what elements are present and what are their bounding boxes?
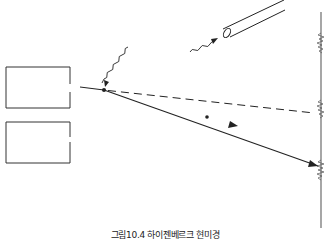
microscope-tube [222, 0, 285, 39]
incident-electron-path [80, 87, 104, 90]
deflected-electron-path [104, 90, 318, 166]
slit-blocks [6, 67, 70, 163]
heisenberg-microscope-diagram [0, 0, 330, 241]
lower-slit-block [6, 122, 70, 163]
upper-slit-block [6, 67, 70, 108]
figure-caption: 그림10.4 하이젠베르크 현미경 [0, 228, 330, 241]
arrow-head-mid [228, 121, 238, 128]
scattered-photon-wave [190, 41, 214, 52]
electron-dot [205, 115, 209, 119]
undeflected-path [108, 91, 314, 114]
incoming-photon-arrowhead [104, 80, 109, 87]
scattered-photon-arrowhead [211, 38, 218, 44]
incoming-photon-wave [102, 47, 128, 83]
